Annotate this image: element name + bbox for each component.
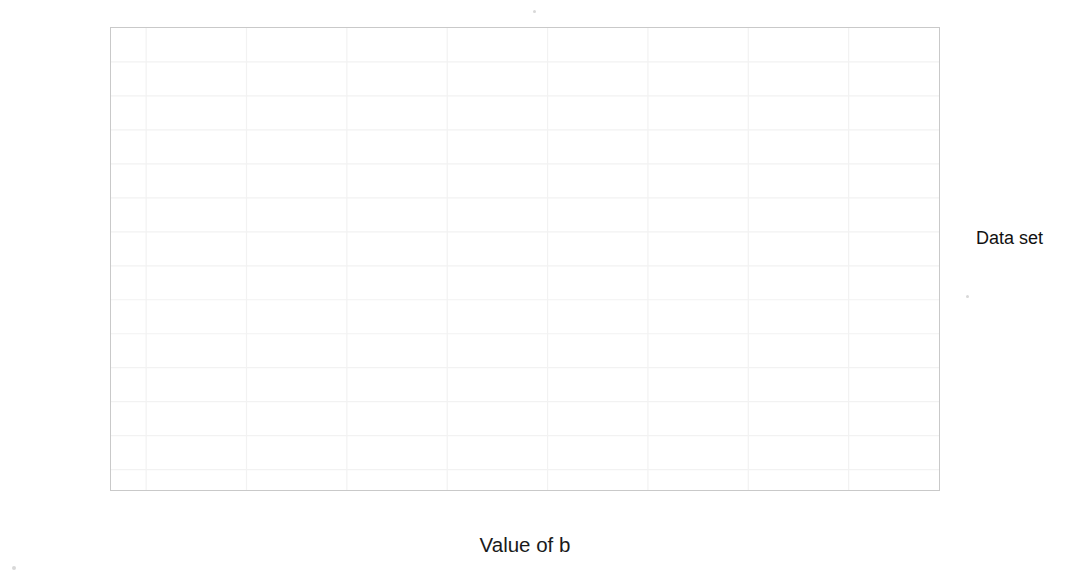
gridlines <box>111 28 939 490</box>
chart-figure: Sum of squared error Value of b Data set <box>0 0 1089 583</box>
plot-svg <box>111 28 939 490</box>
legend: Data set <box>976 228 1084 256</box>
scan-speck <box>12 566 16 570</box>
scan-speck <box>533 10 536 13</box>
y-axis-tick-labels <box>36 0 98 583</box>
plot-panel <box>110 27 940 491</box>
x-axis-title-text: Value of b <box>480 533 571 556</box>
legend-title: Data set <box>976 228 1084 249</box>
x-axis-title: Value of b <box>110 533 940 557</box>
scan-speck <box>966 295 969 298</box>
y-axis-title: Sum of squared error <box>0 0 40 583</box>
